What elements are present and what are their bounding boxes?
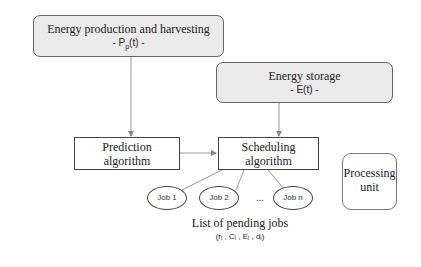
prediction-algorithm-box: Prediction algorithm	[74, 137, 180, 170]
energy-production-box: Energy production and harvesting - Pp(t)…	[33, 15, 224, 57]
energy-storage-title: Energy storage	[217, 69, 392, 83]
job-1-node: Job 1	[147, 186, 187, 210]
scheduling-algorithm-box: Scheduling algorithm	[218, 137, 319, 170]
prediction-label-1: Prediction	[75, 140, 179, 154]
processing-label-2: unit	[343, 180, 396, 194]
energy-production-formula: - Pp(t) -	[34, 36, 223, 53]
pending-jobs-title: List of pending jobs	[165, 216, 315, 231]
energy-storage-box: Energy storage - E(t) -	[216, 62, 393, 103]
processing-label-1: Processing	[343, 166, 396, 180]
processing-unit-box: Processing unit	[342, 153, 397, 210]
scheduling-label-2: algorithm	[219, 154, 318, 168]
job-n-node: Job n	[273, 186, 313, 210]
pending-jobs-tuple: (rᵢ , Cᵢ , Eᵢ , dᵢ)	[165, 232, 315, 241]
energy-storage-formula: - E(t) -	[217, 83, 392, 96]
prediction-label-2: algorithm	[75, 154, 179, 168]
scheduling-label-1: Scheduling	[219, 140, 318, 154]
energy-production-title: Energy production and harvesting	[34, 22, 223, 36]
jobs-ellipsis: ...	[248, 192, 272, 203]
job-2-node: Job 2	[199, 186, 239, 210]
